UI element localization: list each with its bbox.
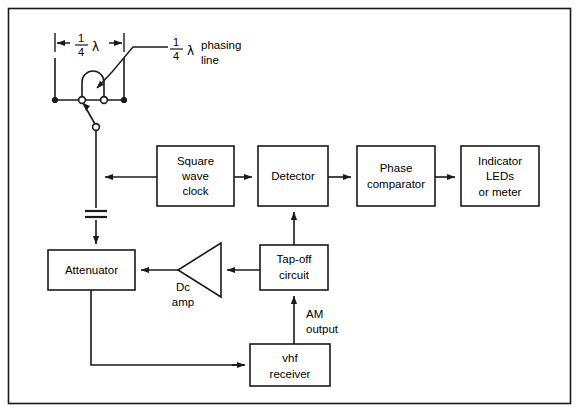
phasing-line-terminal-right bbox=[101, 97, 108, 104]
square-wave-clock-label: Square wave clock bbox=[177, 155, 214, 197]
phase-comparator-box[interactable] bbox=[357, 146, 435, 206]
block-rectangles bbox=[48, 146, 539, 386]
quarter-wave-fraction-label: 1 4 λ bbox=[75, 32, 99, 58]
phasing-label-line2: line bbox=[201, 54, 219, 66]
transmission-line bbox=[85, 131, 107, 244]
phase-comparator-line1: Phase bbox=[380, 162, 413, 174]
phasing-numerator: 1 bbox=[173, 36, 179, 48]
dimension-denominator: 4 bbox=[78, 46, 84, 58]
phase-comparator-line2: comparator bbox=[367, 178, 425, 190]
phasing-denominator: 4 bbox=[173, 50, 179, 62]
dc-amp-label: Dc amp bbox=[172, 281, 194, 308]
vhf-receiver-line1: vhf bbox=[282, 352, 298, 364]
antenna-feed-switch bbox=[83, 103, 99, 130]
phasing-lambda-symbol: λ bbox=[187, 44, 194, 58]
square-wave-clock-line1: Square bbox=[177, 155, 214, 167]
square-wave-clock-line2: wave bbox=[181, 170, 209, 182]
feed-arrowhead bbox=[83, 103, 90, 111]
tap-off-circuit-line1: Tap-off bbox=[277, 253, 313, 265]
feed-terminal-dot bbox=[93, 124, 100, 131]
am-output-label: AM output bbox=[306, 308, 339, 335]
indicator-leds-line2: LEDs bbox=[486, 170, 514, 182]
dc-amp-label-line2: amp bbox=[172, 296, 194, 308]
antenna-terminal-dot-left bbox=[52, 97, 58, 103]
phasing-line-leader bbox=[97, 47, 168, 88]
block-diagram-svg: 1 4 λ 1 bbox=[0, 0, 579, 414]
detector-line1: Detector bbox=[271, 170, 315, 182]
detector-label: Detector bbox=[271, 170, 315, 182]
figure-canvas: 1 4 λ 1 bbox=[0, 0, 579, 414]
am-output-line1: AM bbox=[306, 308, 323, 320]
attenuator-label: Attenuator bbox=[65, 264, 118, 276]
square-wave-clock-line3: clock bbox=[182, 185, 208, 197]
phasing-label-line1: phasing bbox=[201, 39, 241, 51]
attenuator-line1: Attenuator bbox=[65, 264, 118, 276]
dc-amp-label-line1: Dc bbox=[176, 281, 190, 293]
dimension-numerator: 1 bbox=[78, 32, 84, 44]
tap-off-circuit-line2: circuit bbox=[279, 269, 310, 281]
am-output-line2: output bbox=[306, 323, 339, 335]
attenuator-to-vhf-path bbox=[91, 290, 245, 365]
antenna-terminal-dot-right bbox=[121, 97, 127, 103]
antenna-elements bbox=[52, 58, 127, 103]
phasing-line-label: 1 4 λ phasing line bbox=[170, 36, 241, 66]
quarter-wave-dimension bbox=[55, 33, 124, 52]
tap-off-circuit-box[interactable] bbox=[260, 245, 328, 290]
vhf-receiver-line2: receiver bbox=[270, 368, 311, 380]
phasing-line-loop bbox=[79, 71, 108, 103]
dimension-lambda-symbol: λ bbox=[92, 40, 99, 54]
phasing-line-terminal-left bbox=[79, 97, 86, 104]
indicator-leds-line3: or meter bbox=[479, 186, 522, 198]
indicator-leds-line1: Indicator bbox=[478, 155, 522, 167]
